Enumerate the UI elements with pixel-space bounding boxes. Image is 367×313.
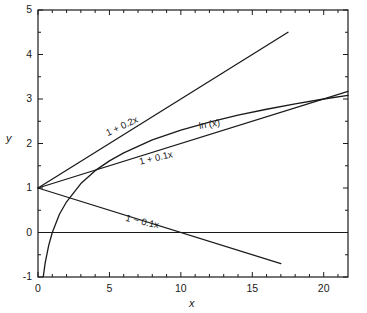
chart-figure: -1012345 05101520 ln (x)1 + 0.2x1 + 0.1x…	[0, 0, 367, 313]
x-tick-label: 20	[304, 282, 344, 294]
y-axis-title: y	[6, 132, 12, 144]
y-tick-label: 3	[8, 92, 32, 104]
y-tick-label: 0	[8, 226, 32, 238]
curve-ln-x-	[43, 95, 348, 276]
x-tick-label: 5	[89, 282, 129, 294]
y-tick-label: 4	[8, 48, 32, 60]
x-tick-label: 0	[18, 282, 58, 294]
curve-1-0-1x	[38, 91, 348, 188]
curve-1-0-2x	[38, 32, 288, 188]
y-tick-label: 5	[8, 3, 32, 15]
y-tick-label: -1	[8, 270, 32, 282]
plot-canvas	[0, 0, 367, 313]
x-tick-label: 15	[232, 282, 272, 294]
y-tick-label: 1	[8, 181, 32, 193]
data-curves	[38, 32, 348, 276]
x-tick-label: 10	[161, 282, 201, 294]
curve-1-0-1x	[38, 188, 281, 264]
x-axis-title: x	[189, 297, 195, 309]
